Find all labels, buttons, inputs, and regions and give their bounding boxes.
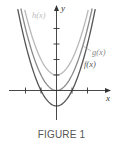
f-label: f(x) xyxy=(84,59,96,69)
figure-caption: FIGURE 1 xyxy=(0,129,123,140)
y-axis-label: y xyxy=(60,3,65,13)
x-axis-label: x xyxy=(105,93,110,103)
x-axis xyxy=(9,88,111,93)
g-label: g(x) xyxy=(92,47,106,57)
y-axis xyxy=(54,5,59,120)
function-graph: x y h(x) g(x) f(x) xyxy=(0,0,123,125)
h-label: h(x) xyxy=(32,10,46,20)
